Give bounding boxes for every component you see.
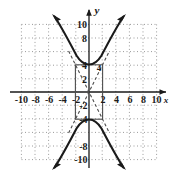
- y-axis-arrow: [86, 9, 92, 16]
- y-tick-label: -4: [79, 114, 87, 125]
- y-tick-label: 2: [82, 74, 87, 85]
- x-tick-label: 4: [114, 94, 119, 105]
- y-tick-label: 8: [82, 33, 87, 44]
- axis-name-labels: y x: [93, 4, 169, 105]
- y-tick-label: -10: [74, 154, 87, 165]
- x-tick-label: 8: [141, 94, 146, 105]
- y-axis-label: y: [93, 4, 100, 16]
- x-tick-labels: -10 -8 -6 -4 -2 2 4 6 8 10: [15, 94, 162, 105]
- x-tick-label: 2: [101, 94, 106, 105]
- y-tick-label: 10: [77, 19, 87, 30]
- x-tick-label: -8: [31, 94, 39, 105]
- y-tick-label: 4: [82, 60, 87, 71]
- rectangle-corner-labels: 4: [97, 63, 102, 73]
- x-tick-label: 10: [152, 94, 162, 105]
- x-tick-label: 6: [128, 94, 133, 105]
- y-tick-label: -8: [79, 141, 87, 152]
- hyperbola-graph-svg: -10 -8 -6 -4 -2 2 4 6 8 10 10 8 4 2 -2 -…: [0, 0, 174, 171]
- x-tick-label: -6: [45, 94, 53, 105]
- x-tick-label: -4: [58, 94, 66, 105]
- y-tick-label: -2: [79, 100, 87, 111]
- x-axis-label: x: [163, 95, 169, 105]
- graph-figure: -10 -8 -6 -4 -2 2 4 6 8 10 10 8 4 2 -2 -…: [0, 0, 174, 171]
- rect-label-top-right: 4: [97, 63, 102, 73]
- x-tick-label: -10: [15, 94, 28, 105]
